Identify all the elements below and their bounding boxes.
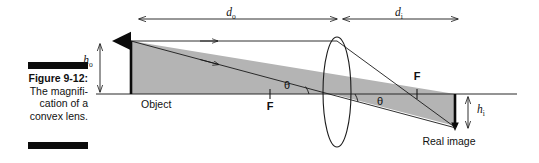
figure-container: Figure 9-12: The magnifi- cation of a co…: [0, 0, 539, 163]
real-image-label: Real image: [422, 135, 475, 147]
object-label: Object: [141, 98, 171, 110]
image-height-subscript: i: [483, 109, 485, 118]
image-height-label: hi: [477, 103, 485, 118]
optics-ray-diagram: Magnification of a convex lens ray diagr…: [0, 0, 539, 163]
focal-point-left-label: F: [267, 100, 274, 112]
object-height-label: ho: [83, 54, 93, 69]
theta-left-label: θ: [284, 79, 290, 91]
object-distance-subscript: o: [232, 12, 236, 21]
focal-point-right-label: F: [414, 70, 421, 82]
object-height-subscript: o: [89, 60, 93, 69]
image-distance-subscript: i: [401, 12, 403, 21]
theta-right-label: θ: [377, 95, 383, 107]
